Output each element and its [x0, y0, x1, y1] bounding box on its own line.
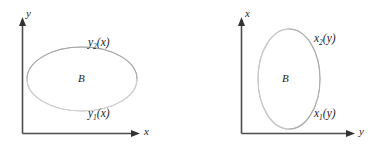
region-boundary	[258, 29, 320, 129]
horizontal-axis-label: x	[144, 126, 149, 137]
figure-root: y x B y2(x) y1(x)	[0, 0, 375, 152]
upper-curve-argument: (x)	[97, 36, 110, 48]
diagram-panel-vertically-simple: y x B y2(x) y1(x)	[0, 0, 187, 152]
diagram-panel-horizontally-simple: x y B x2(y) x1(y)	[188, 0, 375, 152]
upper-curve-label: x2(y)	[314, 33, 336, 45]
horizontal-axis	[23, 130, 141, 137]
lower-curve-subscript: 1	[93, 113, 97, 122]
upper-curve-subscript: 2	[319, 38, 323, 47]
upper-curve-label: y2(x)	[88, 37, 110, 49]
vertical-axis-arrowhead	[19, 17, 26, 26]
lower-curve-label: x1(y)	[314, 108, 336, 120]
lower-curve-subscript: 1	[319, 113, 323, 122]
vertical-axis	[238, 17, 245, 134]
vertical-axis-arrowhead	[238, 17, 245, 26]
horizontal-axis	[242, 130, 356, 137]
lower-curve-argument: (y)	[323, 107, 336, 119]
upper-curve-subscript: 2	[93, 42, 97, 51]
vertically-simple-graphic	[0, 0, 187, 152]
region-label: B	[78, 73, 85, 84]
horizontal-axis-arrowhead	[346, 130, 355, 137]
lower-curve-label: y1(x)	[88, 108, 110, 120]
horizontal-axis-label: y	[359, 126, 364, 137]
vertical-axis-label: x	[245, 8, 250, 19]
vertical-axis-label: y	[26, 8, 31, 19]
upper-curve-argument: (y)	[323, 32, 336, 44]
region-label: B	[282, 73, 289, 84]
lower-curve-argument: (x)	[97, 107, 110, 119]
horizontal-axis-arrowhead	[131, 130, 140, 137]
vertical-axis	[19, 17, 26, 134]
